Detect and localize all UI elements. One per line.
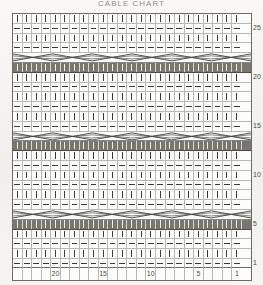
chart-cell[interactable] — [80, 83, 90, 92]
chart-cell[interactable] — [137, 239, 147, 248]
chart-cell[interactable] — [213, 24, 223, 33]
chart-cell[interactable] — [61, 63, 71, 72]
chart-cell[interactable] — [232, 239, 242, 248]
chart-cell[interactable] — [61, 200, 71, 209]
chart-cell[interactable] — [13, 112, 23, 121]
chart-cell[interactable] — [232, 34, 242, 43]
chart-cell[interactable] — [156, 83, 166, 92]
chart-cell[interactable] — [61, 220, 71, 229]
chart-cell[interactable] — [185, 83, 195, 92]
chart-cell[interactable] — [23, 161, 33, 170]
chart-cell[interactable] — [156, 122, 166, 131]
chart-cell[interactable] — [89, 34, 99, 43]
chart-cell[interactable] — [32, 181, 42, 190]
chart-cell[interactable] — [99, 151, 109, 160]
chart-cell[interactable] — [118, 122, 128, 131]
chart-cell[interactable] — [204, 24, 214, 33]
chart-cell[interactable] — [61, 161, 71, 170]
chart-cell[interactable] — [204, 230, 214, 239]
chart-cell[interactable] — [146, 161, 156, 170]
chart-cell[interactable] — [156, 24, 166, 33]
chart-cell[interactable] — [99, 181, 109, 190]
chart-cell[interactable] — [175, 122, 185, 131]
chart-cell[interactable] — [51, 122, 61, 131]
chart-cell[interactable] — [99, 239, 109, 248]
chart-cell[interactable] — [70, 200, 80, 209]
chart-cell[interactable] — [51, 190, 61, 199]
chart-cell[interactable] — [127, 92, 137, 101]
chart-cell[interactable] — [118, 83, 128, 92]
chart-cell[interactable] — [99, 43, 109, 52]
chart-cell[interactable] — [61, 24, 71, 33]
chart-cell[interactable] — [80, 24, 90, 33]
chart-cell[interactable] — [108, 239, 118, 248]
chart-cell[interactable] — [204, 141, 214, 150]
chart-cell[interactable] — [42, 63, 52, 72]
chart-cell[interactable] — [80, 171, 90, 180]
chart-cell[interactable] — [156, 14, 166, 23]
chart-cell[interactable] — [127, 43, 137, 52]
chart-cell[interactable] — [108, 151, 118, 160]
chart-cell[interactable] — [70, 92, 80, 101]
chart-cell[interactable] — [166, 14, 176, 23]
chart-cell[interactable] — [23, 181, 33, 190]
chart-cell[interactable] — [194, 43, 204, 52]
chart-cell[interactable] — [232, 83, 242, 92]
chart-cell[interactable] — [80, 34, 90, 43]
chart-cell[interactable] — [42, 161, 52, 170]
chart-cell[interactable] — [70, 112, 80, 121]
chart-cell[interactable] — [137, 200, 147, 209]
chart-cell[interactable] — [89, 171, 99, 180]
chart-cell[interactable] — [213, 151, 223, 160]
chart-cell[interactable] — [42, 141, 52, 150]
chart-cell[interactable] — [118, 249, 128, 258]
chart-cell[interactable] — [232, 171, 242, 180]
chart-cell[interactable] — [42, 122, 52, 131]
chart-cell[interactable] — [80, 230, 90, 239]
chart-cell[interactable] — [232, 151, 242, 160]
chart-cell[interactable] — [175, 190, 185, 199]
chart-cell[interactable] — [137, 161, 147, 170]
chart-cell[interactable] — [108, 63, 118, 72]
chart-cell[interactable] — [146, 249, 156, 258]
chart-row[interactable] — [13, 239, 251, 249]
chart-cell[interactable] — [232, 230, 242, 239]
chart-cell[interactable] — [146, 200, 156, 209]
chart-cell[interactable] — [23, 190, 33, 199]
chart-cell[interactable] — [118, 161, 128, 170]
chart-cell[interactable] — [61, 92, 71, 101]
chart-cell[interactable] — [166, 24, 176, 33]
chart-cell[interactable] — [13, 73, 23, 82]
chart-cell[interactable] — [108, 92, 118, 101]
chart-cell[interactable] — [13, 83, 23, 92]
chart-cell[interactable] — [185, 63, 195, 72]
chart-cell[interactable] — [99, 171, 109, 180]
chart-cell[interactable] — [146, 83, 156, 92]
chart-cell[interactable] — [70, 43, 80, 52]
chart-cell[interactable] — [89, 230, 99, 239]
chart-cell[interactable] — [213, 181, 223, 190]
chart-cell[interactable] — [137, 141, 147, 150]
chart-cell[interactable] — [175, 63, 185, 72]
chart-cell[interactable] — [156, 43, 166, 52]
chart-cell[interactable] — [223, 112, 233, 121]
chart-cell[interactable] — [194, 190, 204, 199]
chart-cell[interactable] — [13, 220, 23, 229]
chart-cell[interactable] — [99, 102, 109, 111]
chart-cell[interactable] — [127, 171, 137, 180]
chart-cell[interactable] — [23, 83, 33, 92]
chart-cell[interactable] — [194, 200, 204, 209]
chart-cell[interactable] — [13, 63, 23, 72]
chart-cell[interactable] — [70, 122, 80, 131]
chart-cell[interactable] — [42, 249, 52, 258]
chart-cell[interactable] — [51, 73, 61, 82]
chart-cell[interactable] — [70, 161, 80, 170]
chart-cell[interactable] — [61, 239, 71, 248]
chart-cell[interactable] — [137, 102, 147, 111]
chart-cell[interactable] — [166, 63, 176, 72]
chart-cell[interactable] — [137, 122, 147, 131]
chart-cell[interactable] — [232, 220, 242, 229]
chart-cell[interactable] — [204, 190, 214, 199]
chart-cell[interactable] — [70, 83, 80, 92]
chart-cell[interactable] — [42, 171, 52, 180]
